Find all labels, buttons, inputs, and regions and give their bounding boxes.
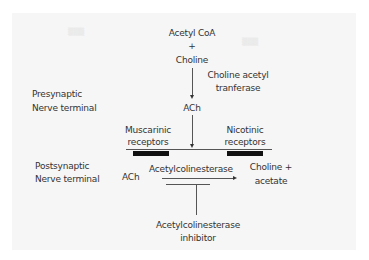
release-arrowhead-icon	[190, 144, 194, 148]
ach-presynaptic-label: ACh	[183, 102, 200, 114]
choline-acetyltransferase-label-line1: Choline acetyl	[207, 69, 268, 81]
inhibition-bar	[166, 184, 210, 185]
postsynaptic-label-line2: Nerve terminal	[35, 173, 100, 185]
inhibition-line	[196, 184, 197, 215]
breakdown-arrow-shaft	[162, 178, 234, 179]
synthesis-arrowhead-icon	[190, 95, 194, 99]
muscarinic-receptor-bar	[133, 151, 169, 156]
synaptic-membrane-line	[126, 149, 272, 150]
presynaptic-label-line1: Presynaptic	[32, 88, 82, 100]
muscarinic-receptors-line1: Muscarinic	[125, 124, 171, 136]
diagram-panel	[12, 13, 356, 250]
acetylcholinesterase-label: Acetylcolinesterase	[149, 163, 233, 175]
breakdown-arrowhead-icon	[233, 176, 237, 180]
watermark-left: ▒▒▒	[68, 28, 84, 36]
choline-plus-label: Choline +	[250, 161, 292, 173]
watermark-right: ▒▒▒	[242, 38, 258, 46]
nicotinic-receptors-line2: receptors	[225, 136, 266, 148]
presynaptic-label-line2: Nerve terminal	[32, 102, 97, 114]
choline-label: Choline	[176, 54, 208, 66]
release-arrow-shaft	[192, 115, 193, 145]
nicotinic-receptors-line1: Nicotinic	[226, 124, 263, 136]
muscarinic-receptors-line2: receptors	[128, 136, 169, 148]
inhibitor-label-line1: Acetylcolinesterase	[156, 219, 240, 231]
choline-acetyltransferase-label-line2: tranferase	[216, 82, 261, 94]
inhibitor-label-line2: inhibitor	[180, 232, 216, 244]
acetate-label: acetate	[255, 175, 288, 187]
acetyl-coa-label: Acetyl CoA	[169, 27, 216, 39]
ach-postsynaptic-label: ACh	[122, 171, 139, 183]
plus-sign: +	[188, 40, 195, 52]
postsynaptic-label-line1: Postsynaptic	[35, 160, 89, 172]
nicotinic-receptor-bar	[227, 151, 263, 156]
synthesis-arrow-shaft	[192, 68, 193, 96]
